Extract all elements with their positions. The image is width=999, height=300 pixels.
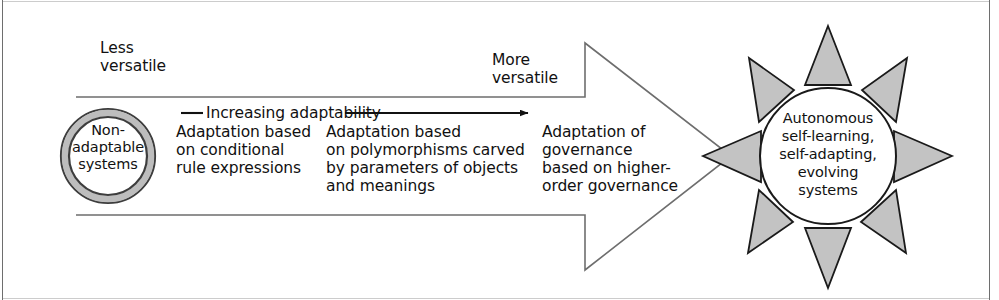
start-node-label: Non- adaptable systems xyxy=(58,122,158,172)
label-more-versatile: More versatile xyxy=(492,52,558,88)
end-node-label: Autonomous self-learning, self-adapting,… xyxy=(762,110,894,200)
sun-ray-w xyxy=(703,131,761,182)
sun-ray-e xyxy=(894,131,952,182)
stage-1-label: Adaptation based on conditional rule exp… xyxy=(176,124,311,178)
axis-label-increasing-adaptability: Increasing adaptability xyxy=(206,105,381,123)
label-less-versatile: Less versatile xyxy=(100,40,166,76)
sun-ray-n xyxy=(805,26,851,85)
figure-root: Less versatile More versatile Increasing… xyxy=(0,0,999,300)
stage-2-label: Adaptation based on polymorphisms carved… xyxy=(326,124,525,196)
stage-3-label: Adaptation of governance based on higher… xyxy=(542,124,678,196)
sun-ray-s xyxy=(805,228,851,288)
